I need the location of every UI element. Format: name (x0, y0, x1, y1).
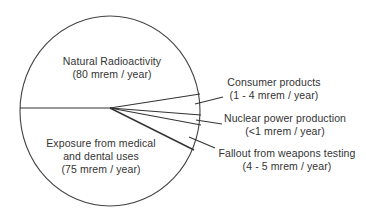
label-medical-value: (75 mrem / year) (45, 163, 157, 176)
label-natural-radioactivity: Natural Radioactivity (80 mrem / year) (62, 55, 162, 81)
label-medical-dental: Exposure from medical and dental uses (7… (45, 137, 157, 176)
label-fallout-value: (4 - 5 mrem / year) (218, 160, 356, 173)
label-fallout-weapons: Fallout from weapons testing (4 - 5 mrem… (218, 147, 356, 173)
pie-outline (20, 16, 200, 206)
label-natural-title: Natural Radioactivity (62, 55, 162, 68)
label-medical-title-1: Exposure from medical (45, 137, 157, 150)
pie-chart (0, 0, 366, 218)
label-nuclear-value: (<1 mrem / year) (222, 125, 348, 138)
label-consumer-value: (1 - 4 mrem / year) (222, 89, 326, 102)
label-nuclear-title: Nuclear power production (222, 112, 348, 125)
slice-divider-nuclear-bottom (110, 108, 201, 125)
label-consumer-products: Consumer products (1 - 4 mrem / year) (222, 76, 326, 102)
slice-divider-consumer-top (110, 94, 200, 108)
label-consumer-title: Consumer products (222, 76, 326, 89)
label-fallout-title: Fallout from weapons testing (218, 147, 356, 160)
callout-line-fallout (189, 137, 215, 148)
label-natural-value: (80 mrem / year) (62, 68, 162, 81)
label-medical-title-2: and dental uses (45, 150, 157, 163)
label-nuclear-power: Nuclear power production (<1 mrem / year… (222, 112, 348, 138)
slice-divider-nuclear-top (110, 108, 201, 115)
